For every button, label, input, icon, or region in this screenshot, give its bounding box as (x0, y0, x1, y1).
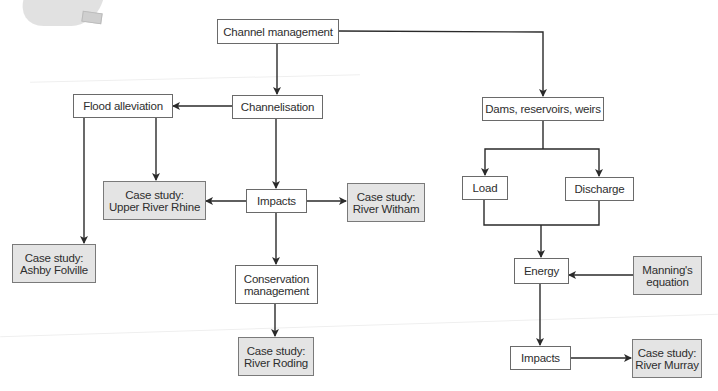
node-label-line2: Upper River Rhine (109, 201, 200, 213)
node-label: Channel management (223, 26, 333, 38)
node-label: Energy (524, 265, 559, 277)
node-label-line1: Conservation (244, 273, 309, 285)
flow-diagram: Channel management Channelisation Flood … (0, 0, 718, 391)
node-label: Flood alleviation (83, 100, 163, 112)
node-label: Dams, reservoirs, weirs (485, 103, 601, 115)
node-energy: Energy (514, 258, 569, 284)
node-label: Discharge (575, 183, 625, 195)
node-discharge: Discharge (565, 177, 634, 201)
node-mannings-equation: Manning's equation (633, 256, 702, 295)
node-impacts-right: Impacts (510, 346, 571, 370)
node-label-line2: River Murray (635, 359, 698, 371)
node-label-line1: Case study: (125, 189, 184, 201)
node-flood-alleviation: Flood alleviation (73, 94, 173, 118)
node-label-line2: Ashby Folville (20, 264, 88, 276)
node-dams-reservoirs-weirs: Dams, reservoirs, weirs (482, 97, 604, 121)
node-label-line2: equation (646, 276, 689, 288)
node-channelisation: Channelisation (232, 95, 323, 119)
node-case-study-river-witham: Case study: River Witham (347, 183, 425, 222)
arrow-load-merge (484, 199, 599, 225)
node-case-study-river-roding: Case study: River Roding (238, 337, 314, 376)
node-case-study-upper-river-rhine: Case study: Upper River Rhine (103, 181, 206, 220)
node-label: Channelisation (241, 101, 314, 113)
node-channel-management: Channel management (217, 19, 339, 44)
node-label-line1: Case study: (638, 347, 697, 359)
node-label: Impacts (257, 195, 296, 207)
node-label: Impacts (521, 352, 560, 364)
node-label-line1: Manning's (642, 264, 692, 276)
node-label-line1: Case study: (357, 191, 416, 203)
node-load: Load (462, 176, 508, 200)
node-conservation-management: Conservation management (235, 265, 318, 304)
node-case-study-ashby-folville: Case study: Ashby Folville (12, 244, 96, 283)
node-label-line2: River Roding (244, 357, 308, 369)
arrow-dams-to-discharge (543, 149, 599, 176)
node-label: Load (473, 182, 498, 194)
arrow-channel-to-dams (338, 31, 543, 96)
node-label-line1: Case study: (247, 345, 306, 357)
node-label-line2: management (244, 285, 309, 297)
node-impacts-left: Impacts (246, 189, 307, 213)
arrow-dams-to-load (485, 149, 543, 175)
node-label-line1: Case study: (25, 252, 84, 264)
node-label-line2: River Witham (353, 203, 420, 215)
node-case-study-river-murray: Case study: River Murray (632, 339, 702, 378)
